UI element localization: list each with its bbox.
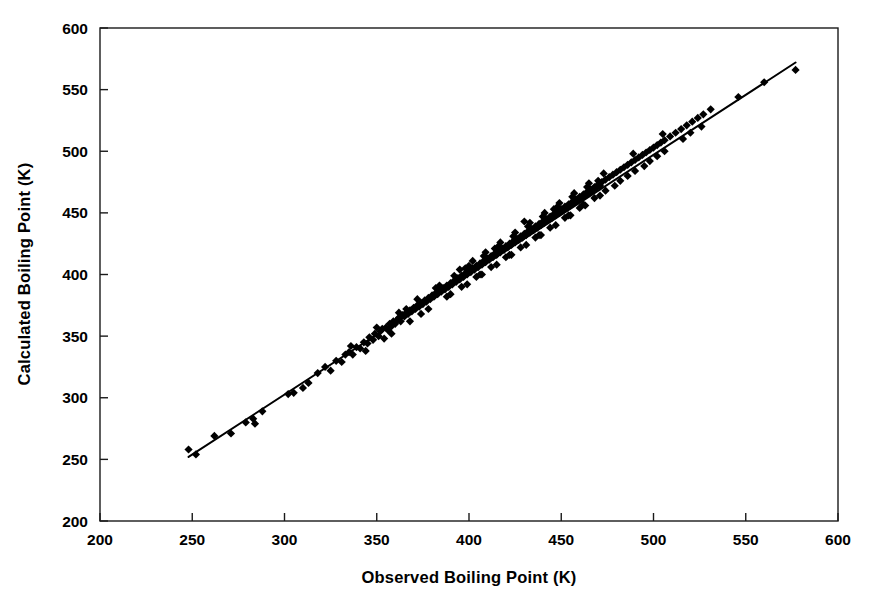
y-tick-label: 200 xyxy=(62,513,88,530)
x-tick-label: 450 xyxy=(548,531,574,548)
x-tick-label: 550 xyxy=(733,531,759,548)
y-tick-label: 600 xyxy=(62,20,88,37)
figure-background xyxy=(0,0,869,609)
x-tick-label: 250 xyxy=(179,531,205,548)
y-tick-label: 550 xyxy=(62,81,88,98)
x-tick-label: 400 xyxy=(456,531,482,548)
y-tick-label: 450 xyxy=(62,204,88,221)
x-axis-tick-labels: 200250300350400450500550600 xyxy=(87,531,851,548)
y-tick-label: 300 xyxy=(62,389,88,406)
y-tick-label: 350 xyxy=(62,328,88,345)
scatter-plot-figure: 200250300350400450500550600 200250300350… xyxy=(0,0,869,609)
y-axis-tick-labels: 200250300350400450500550600 xyxy=(62,20,88,530)
y-tick-label: 400 xyxy=(62,266,88,283)
y-axis-label: Calculated Boiling Point (K) xyxy=(15,163,33,386)
x-tick-label: 300 xyxy=(272,531,298,548)
y-tick-label: 250 xyxy=(62,451,88,468)
x-tick-label: 350 xyxy=(364,531,390,548)
y-tick-label: 500 xyxy=(62,143,88,160)
x-axis-label: Observed Boiling Point (K) xyxy=(361,568,576,586)
x-tick-label: 500 xyxy=(641,531,667,548)
x-tick-label: 200 xyxy=(87,531,113,548)
x-tick-label: 600 xyxy=(825,531,851,548)
